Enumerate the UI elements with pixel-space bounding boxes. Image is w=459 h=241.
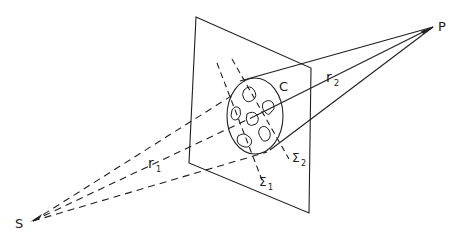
screen-plane — [189, 17, 311, 213]
label-sigma1-sub: 1 — [268, 183, 273, 192]
rays-to-point — [240, 27, 433, 150]
diffraction-diagram: S P C r 1 r 2 Σ 1 Σ 2 — [0, 0, 459, 241]
label-sigma2-sub: 2 — [301, 159, 306, 168]
label-point: P — [438, 19, 446, 34]
label-r2-sub: 2 — [334, 79, 339, 88]
label-r1: r — [148, 155, 154, 171]
label-aperture: C — [279, 79, 288, 94]
label-sigma1: Σ — [259, 175, 267, 189]
label-sigma2: Σ — [292, 151, 300, 165]
source-arrow-icon — [30, 214, 42, 222]
label-r1-sub: 1 — [156, 165, 161, 174]
label-r2: r — [326, 69, 332, 85]
label-source: S — [15, 216, 23, 231]
